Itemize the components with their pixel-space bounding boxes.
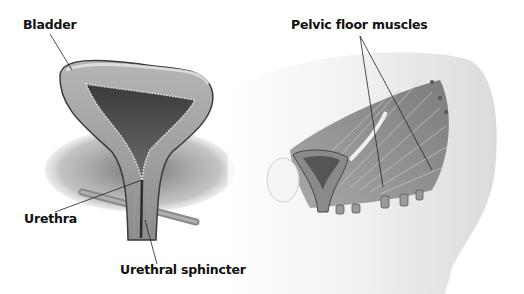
- urethral-sphincter-label: Urethral sphincter: [120, 262, 246, 277]
- urethra-label: Urethra: [24, 211, 77, 226]
- anatomy-illustration: [0, 0, 524, 294]
- anatomy-figure: Bladder Urethra Urethral sphincter Pelvi…: [0, 0, 524, 294]
- pelvis-illustration: [228, 52, 497, 294]
- pelvic-floor-muscles-label: Pelvic floor muscles: [291, 17, 428, 32]
- bladder-label: Bladder: [23, 17, 76, 32]
- bladder-leader-line: [50, 34, 72, 70]
